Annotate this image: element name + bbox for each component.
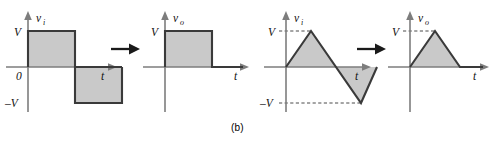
square-output-x-axis-label: t (234, 70, 238, 82)
panel-square-input: v i t V 0 –V (0, 4, 124, 119)
square-output-plot: v o t V (140, 4, 255, 119)
triangle-output-y-axis-sublabel: o (425, 18, 429, 27)
square-output-y-axis-arrowhead (161, 11, 169, 20)
square-input-negative-region (75, 67, 122, 103)
panel-triangle-input: v i t V –V (258, 4, 380, 119)
arrow-right-icon (356, 41, 388, 57)
square-input-tick-v: V (14, 26, 23, 38)
waveform-figure: v i t V 0 –V v o t (0, 0, 495, 143)
triangle-input-plot: v i t V –V (258, 4, 380, 119)
triangle-input-tick-v: V (268, 26, 277, 38)
square-input-tick-neg-v: –V (4, 97, 20, 109)
square-input-plot: v i t V 0 –V (0, 4, 124, 119)
triangle-input-tick-neg-v: –V (259, 97, 275, 109)
transform-arrow-2 (356, 41, 388, 57)
square-output-positive-region (165, 31, 212, 67)
square-output-y-axis-label: v (173, 12, 179, 24)
square-output-y-axis-sublabel: o (180, 18, 184, 27)
triangle-input-positive-region (286, 31, 336, 67)
triangle-input-y-axis-arrowhead (282, 11, 290, 20)
square-input-y-axis-label: v (36, 12, 42, 24)
triangle-output-y-axis-arrowhead (406, 11, 414, 20)
square-input-y-axis-sublabel: i (43, 18, 45, 27)
panel-triangle-output: v o t V (385, 4, 495, 119)
panel-square-output: v o t V (140, 4, 255, 119)
triangle-output-tick-v: V (392, 26, 401, 38)
square-input-positive-region (28, 31, 75, 67)
triangle-input-y-axis-sublabel: i (301, 18, 303, 27)
square-output-tick-v: V (151, 26, 160, 38)
square-input-tick-zero: 0 (16, 70, 22, 82)
triangle-output-positive-region (410, 31, 460, 67)
arrow-right-icon (110, 41, 142, 57)
triangle-output-y-axis-label: v (418, 12, 424, 24)
triangle-output-plot: v o t V (385, 4, 495, 119)
square-input-y-axis-arrowhead (24, 11, 32, 20)
transform-arrow-1 (110, 41, 142, 57)
triangle-output-x-axis-label: t (473, 70, 477, 82)
figure-caption: (b) (231, 122, 244, 133)
triangle-input-y-axis-label: v (294, 12, 300, 24)
